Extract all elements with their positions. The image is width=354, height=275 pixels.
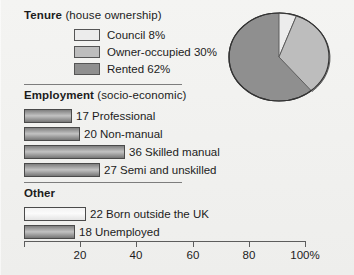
legend-item-owner-occupied: Owner-occupied 30% [74,46,217,58]
bar-skilled-manual [24,145,125,159]
bar-label-unemployed: 18 Unemployed [79,225,160,239]
bar-label-born-outside-uk: 22 Born outside the UK [90,207,209,221]
divider-other [24,182,182,183]
axis-tick-label-80: 80 [229,249,269,261]
legend-item-council: Council 8% [74,29,165,41]
section-title-employment: Employment [24,89,94,101]
section-title-other: Other [24,187,55,199]
axis-tick-40 [136,241,137,247]
bar-label-semi-and-unskilled: 27 Semi and unskilled [104,163,217,177]
legend-label-council: Council 8% [107,29,165,41]
section-heading-other: Other [24,187,55,199]
section-heading-employment: Employment (socio-economic) [24,89,186,101]
bar-born-outside-uk [24,207,86,221]
axis-tick-20 [80,241,81,247]
pie-chart [227,11,331,107]
axis-tick-label-60: 60 [173,249,213,261]
chart-figure: Tenure (house ownership) Council 8% Owne… [0,0,354,275]
bar-semi-and-unskilled [24,163,100,177]
axis-tick-60 [193,241,194,247]
divider-employment [24,84,182,85]
bar-label-professional: 17 Professional [76,109,155,123]
axis-tick-label-20: 20 [60,249,100,261]
axis-tick-label-40: 40 [116,249,156,261]
pie-chart-svg [227,11,331,103]
axis-tick-80 [249,241,250,247]
legend-item-rented: Rented 62% [74,63,170,75]
section-subtitle-tenure: (house ownership) [65,9,161,21]
swatch-council [74,29,100,41]
legend-label-owner-occupied: Owner-occupied 30% [107,46,217,58]
section-heading-tenure: Tenure (house ownership) [24,9,162,21]
swatch-rented [74,63,100,75]
swatch-owner-occupied [74,46,100,58]
axis-tick-label-100: 100% [283,249,327,261]
bar-label-non-manual: 20 Non-manual [84,127,163,141]
bar-professional [24,109,72,123]
bar-unemployed [24,225,75,239]
legend-label-rented: Rented 62% [107,63,170,75]
bar-non-manual [24,127,80,141]
section-subtitle-employment: (socio-economic) [97,89,186,101]
section-title-tenure: Tenure [24,9,62,21]
axis-tick-100 [305,241,306,247]
axis-line [24,241,306,242]
bar-label-skilled-manual: 36 Skilled manual [129,145,220,159]
axis-tick-0 [24,241,25,247]
